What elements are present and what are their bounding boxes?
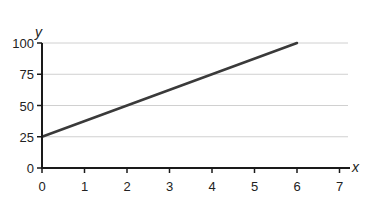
- x-tick-label: 7: [336, 179, 343, 194]
- x-tick-label: 5: [251, 179, 258, 194]
- x-axis-label: x: [351, 159, 360, 175]
- y-tick-label: 25: [20, 130, 34, 145]
- y-tick-label: 0: [27, 161, 34, 176]
- data-series: [42, 43, 297, 137]
- y-tick-label: 75: [20, 67, 34, 82]
- x-tick-label: 6: [293, 179, 300, 194]
- y-tick-label: 50: [20, 99, 34, 114]
- x-axis-ticks: 01234567: [38, 168, 343, 194]
- gridlines: [42, 43, 348, 137]
- x-tick-label: 2: [123, 179, 130, 194]
- x-tick-label: 4: [208, 179, 215, 194]
- y-axis-ticks: 0255075100: [12, 36, 42, 176]
- y-tick-label: 100: [12, 36, 34, 51]
- x-tick-label: 1: [81, 179, 88, 194]
- series-line: [42, 43, 297, 137]
- y-axis-label: y: [34, 24, 43, 40]
- line-chart: 0255075100 01234567 y x: [0, 0, 385, 202]
- x-tick-label: 0: [38, 179, 45, 194]
- x-tick-label: 3: [166, 179, 173, 194]
